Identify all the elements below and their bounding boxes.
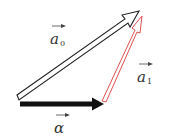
label-a1-subscript: 1 [147, 77, 152, 86]
label-alpha-symbol: α [54, 119, 64, 137]
label-a0-symbol: a [50, 30, 59, 48]
vector-alpha-arrow [20, 98, 104, 111]
vector-a1-arrow [102, 16, 142, 102]
vector-a0-arrow [17, 11, 139, 100]
label-a0-subscript: 0 [60, 39, 65, 48]
vector-arrow-icon [139, 61, 153, 67]
vector-arrow-icon [56, 112, 70, 118]
label-a1-symbol: a [137, 68, 146, 86]
label-a0: a0 [50, 32, 65, 48]
label-alpha: α [54, 121, 64, 136]
vector-arrow-icon [52, 23, 66, 29]
label-a1: a1 [137, 70, 152, 86]
